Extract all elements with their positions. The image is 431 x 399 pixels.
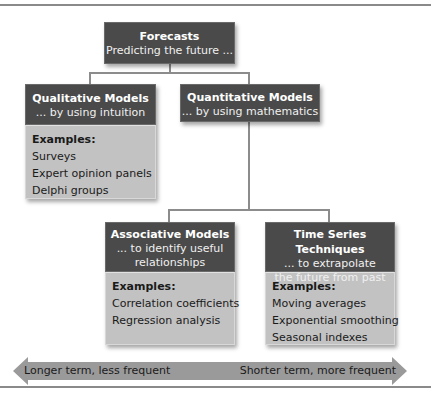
qualitative-example: Surveys [32, 148, 149, 165]
time-series-example: Moving averages [272, 295, 388, 312]
connector-quantitative-drop [248, 72, 250, 84]
quantitative-subtitle: ... by using mathematics [181, 105, 319, 119]
qualitative-title: Qualitative Models [26, 91, 155, 106]
associative-subtitle-1: ... to identify useful [106, 242, 234, 256]
quantitative-node: Quantitative Models ... by using mathema… [180, 84, 320, 122]
connector-associative-drop [168, 209, 170, 222]
forecasts-subtitle: Predicting the future ... [105, 44, 234, 58]
arrow-right-label: Shorter term, more frequent [240, 364, 396, 378]
time-series-node: Time Series Techniques ... to extrapolat… [265, 222, 395, 345]
associative-example: Correlation coefficients [112, 295, 228, 312]
connector-quantitative-down [248, 122, 250, 211]
connector-qualitative-drop [89, 72, 91, 84]
time-series-title: Time Series Techniques [266, 227, 394, 257]
bottom-rule [0, 386, 431, 388]
time-series-subtitle-1: ... to extrapolate [266, 257, 394, 271]
qualitative-subtitle: ... by using intuition [26, 106, 155, 120]
connector-level1-bar [89, 72, 250, 74]
associative-node: Associative Models ... to identify usefu… [105, 222, 235, 345]
qualitative-example: Expert opinion panels [32, 165, 149, 182]
connector-level2-bar [168, 209, 330, 211]
associative-title: Associative Models [106, 227, 234, 242]
forecasts-title: Forecasts [105, 29, 234, 44]
top-rule [0, 4, 431, 6]
arrow-left-label: Longer term, less frequent [24, 364, 170, 378]
associative-examples-label: Examples: [112, 278, 228, 295]
quantitative-title: Quantitative Models [181, 90, 319, 105]
forecasts-node: Forecasts Predicting the future ... [104, 22, 235, 64]
qualitative-example: Delphi groups [32, 182, 149, 199]
qualitative-examples-label: Examples: [32, 131, 149, 148]
qualitative-node: Qualitative Models ... by using intuitio… [25, 84, 156, 199]
time-series-example: Seasonal indexes [272, 329, 388, 346]
time-series-example: Exponential smoothing [272, 312, 388, 329]
connector-timeseries-drop [328, 209, 330, 222]
associative-example: Regression analysis [112, 312, 228, 329]
associative-subtitle-2: relationships [106, 256, 234, 270]
